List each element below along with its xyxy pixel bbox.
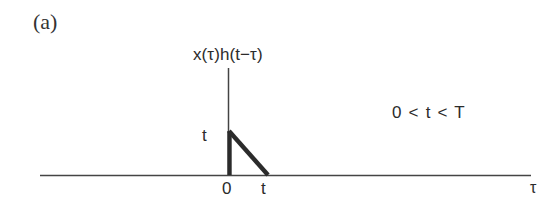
panel-label: (a) [33, 11, 57, 33]
horizontal-axis-label: τ [530, 180, 536, 196]
tick-label-origin: 0 [222, 180, 231, 197]
figure-panel: (a) x(τ)h(t−τ) t 0 t 0 < t < T τ [0, 0, 560, 214]
pulse-decay-edge [229, 131, 268, 175]
condition-annotation: 0 < t < T [392, 104, 466, 121]
convolution-plot [0, 0, 560, 214]
amplitude-axis-label: t [202, 127, 207, 144]
tick-label-t: t [261, 180, 266, 197]
signal-expression-label: x(τ)h(t−τ) [193, 46, 263, 63]
